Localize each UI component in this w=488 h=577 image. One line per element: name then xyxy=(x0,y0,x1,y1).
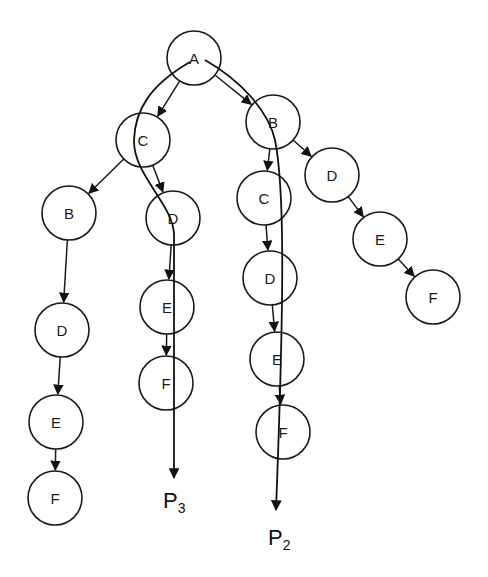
node-d5: D xyxy=(243,251,297,305)
node-label: E xyxy=(162,299,172,316)
node-label: F xyxy=(50,490,59,507)
node-e2: E xyxy=(140,280,194,334)
node-f5: F xyxy=(256,405,310,459)
tree-edges xyxy=(55,75,414,470)
node-label: D xyxy=(327,167,338,184)
edge-arrow-d2-e2 xyxy=(169,245,171,279)
node-f3: F xyxy=(406,270,460,324)
node-c1: C xyxy=(116,113,170,167)
edge-arrow-c1-b2 xyxy=(89,159,124,193)
edge-arrow-d3-e3 xyxy=(348,197,363,217)
node-e3: E xyxy=(353,212,407,266)
node-b1: B xyxy=(246,95,300,149)
node-d3: D xyxy=(305,148,359,202)
node-f2: F xyxy=(139,356,193,410)
edge-arrow-a-c1 xyxy=(158,81,180,116)
edge-arrow-b2-d4 xyxy=(64,240,68,302)
node-c3: C xyxy=(237,171,291,225)
path-label-p2: P2 xyxy=(268,525,291,553)
node-e4: E xyxy=(29,395,83,449)
node-label: D xyxy=(57,322,68,339)
node-label: A xyxy=(189,50,199,67)
edge-arrow-c1-d2 xyxy=(153,165,163,192)
node-d4: D xyxy=(35,303,89,357)
edge-arrow-b1-c3 xyxy=(267,149,270,170)
path-labels: P3P2 xyxy=(163,488,291,553)
node-label: B xyxy=(268,114,278,131)
node-label: C xyxy=(138,132,149,149)
edge-arrow-c3-d5 xyxy=(266,225,268,250)
node-label: E xyxy=(375,231,385,248)
node-label: D xyxy=(265,270,276,287)
edge-arrow-d5-e5 xyxy=(272,305,274,331)
tree-nodes: ACBBDCDDEDEEFEFFF xyxy=(28,31,460,525)
node-b2: B xyxy=(42,186,96,240)
node-label: C xyxy=(259,190,270,207)
node-label: F xyxy=(428,289,437,306)
tree-diagram: ACBBDCDDEDEEFEFFF P3P2 xyxy=(0,0,488,577)
edge-arrow-e3-f3 xyxy=(398,259,414,276)
node-label: F xyxy=(161,375,170,392)
edge-arrow-b1-d3 xyxy=(293,140,311,156)
path-label-p3: P3 xyxy=(163,488,186,516)
node-label: B xyxy=(64,205,74,222)
node-a: A xyxy=(167,31,221,85)
node-e5: E xyxy=(250,332,304,386)
node-label: E xyxy=(51,414,61,431)
node-d2: D xyxy=(146,191,200,245)
edge-arrow-d4-e4 xyxy=(58,357,60,394)
node-f4: F xyxy=(28,471,82,525)
